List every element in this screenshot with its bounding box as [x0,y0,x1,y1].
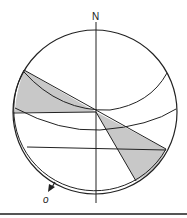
line-horizontal-upper [13,112,96,113]
north-label: N [92,11,99,22]
arrow-head-icon [48,184,55,192]
shaded-wedge-upper-left [15,70,96,112]
arrow-label: o [43,194,49,205]
bottom-rule [0,213,187,215]
stereonet-diagram [0,0,187,218]
shaded-wedge-lower-right [96,112,166,181]
